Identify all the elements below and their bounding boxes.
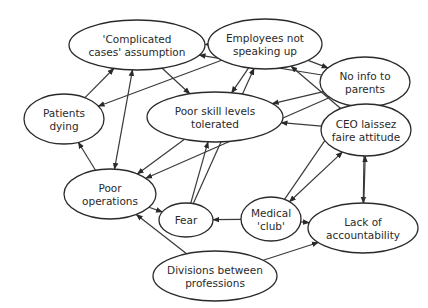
node-label: 'Complicated — [103, 33, 172, 45]
node-label: professions — [185, 277, 245, 289]
node-poorskill: Poor skill levelstolerated — [147, 92, 283, 142]
node-label: Poor skill levels — [175, 105, 256, 117]
edge-employees-to-poorskill-arrow — [232, 68, 249, 93]
node-noinfo: No info toparents — [320, 57, 410, 107]
node-label: Employees not — [226, 32, 304, 44]
node-poorops: Pooroperations — [64, 169, 156, 219]
node-divisions: Divisions betweenprofessions — [153, 251, 277, 301]
edge-fear-to-poorskill-arrow — [191, 142, 208, 203]
node-label: Patients — [43, 107, 85, 119]
edge-medical-to-ceo-arrow — [290, 152, 343, 202]
node-employees: Employees notspeaking up — [208, 19, 322, 69]
node-label: faire attitude — [332, 131, 400, 143]
node-ceo: CEO laissezfaire attitude — [321, 104, 411, 156]
edge-poorskill-to-poorops-arrow — [137, 139, 184, 174]
causal-diagram: 'Complicatedcases' assumptionEmployees n… — [0, 0, 428, 308]
node-lack: Lack ofaccountability — [308, 203, 418, 253]
edge-ceo-to-poorskill-arrow — [281, 123, 321, 127]
node-label: CEO laissez — [336, 118, 397, 130]
node-label: No info to — [339, 70, 390, 82]
edge-complicated-to-poorops-arrow — [115, 70, 133, 169]
node-label: 'club' — [257, 220, 285, 232]
node-label: tolerated — [191, 118, 239, 130]
node-label: Medical — [251, 207, 291, 219]
node-label: Lack of — [344, 216, 382, 228]
edge-patients-to-complicated-arrow — [85, 69, 114, 98]
node-label: Poor — [98, 182, 122, 194]
node-fear: Fear — [159, 203, 213, 237]
edge-noinfo-to-poorskill-arrow — [272, 92, 323, 104]
node-label: Divisions between — [167, 264, 263, 276]
node-medical: Medical'club' — [241, 197, 301, 241]
node-label: accountability — [326, 229, 400, 241]
edge-poorops-to-patients-arrow — [78, 142, 95, 170]
node-complicated: 'Complicatedcases' assumption — [69, 20, 205, 70]
node-label: dying — [49, 120, 78, 132]
edge-medical-to-lack-arrow — [301, 222, 310, 223]
node-label: Fear — [175, 214, 198, 226]
node-label: operations — [82, 195, 138, 207]
node-label: parents — [345, 83, 385, 95]
edge-divisions-to-lack-arrow — [263, 243, 318, 261]
node-patients: Patientsdying — [24, 94, 104, 144]
nodes-layer: 'Complicatedcases' assumptionEmployees n… — [24, 19, 418, 301]
node-label: cases' assumption — [89, 46, 186, 58]
edge-employees-to-noinfo-arrow — [308, 60, 328, 68]
edge-poorops-to-fear-arrow — [149, 207, 162, 212]
node-label: speaking up — [233, 45, 297, 57]
